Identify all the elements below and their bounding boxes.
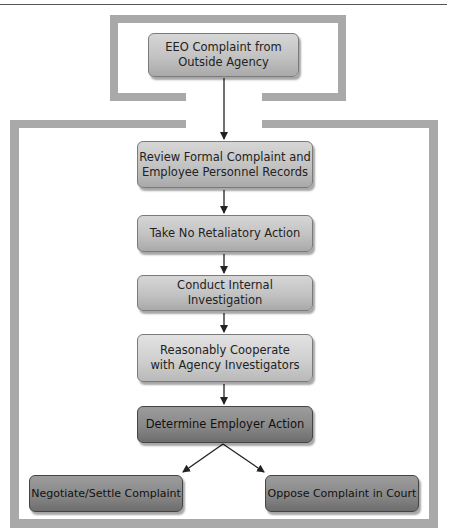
node-internal-investigation: Conduct Internal Investigation xyxy=(137,275,313,311)
node-label: Review Formal Complaint and xyxy=(139,150,311,164)
node-label: Conduct Internal Investigation xyxy=(138,278,312,308)
node-cooperate: Reasonably Cooperatewith Agency Investig… xyxy=(137,334,313,382)
node-label: Take No Retaliatory Action xyxy=(150,226,301,241)
node-review-records: Review Formal Complaint andEmployee Pers… xyxy=(137,141,313,188)
flow-arrows xyxy=(0,0,449,530)
node-no-retaliation: Take No Retaliatory Action xyxy=(137,215,313,252)
node-label: Reasonably Cooperate xyxy=(160,343,290,357)
node-label: Determine Employer Action xyxy=(146,417,305,432)
node-label: Oppose Complaint in Court xyxy=(268,486,417,501)
node-label: Negotiate/Settle Complaint xyxy=(31,486,181,501)
node-label: Outside Agency xyxy=(178,55,269,69)
node-determine-action: Determine Employer Action xyxy=(137,406,313,443)
node-eeo-complaint: EEO Complaint fromOutside Agency xyxy=(148,33,299,77)
node-negotiate-settle: Negotiate/Settle Complaint xyxy=(29,475,183,512)
node-label: EEO Complaint from xyxy=(165,40,281,54)
node-oppose-court: Oppose Complaint in Court xyxy=(265,475,419,512)
node-label: Employee Personnel Records xyxy=(142,165,308,179)
node-label: with Agency Investigators xyxy=(150,358,299,372)
